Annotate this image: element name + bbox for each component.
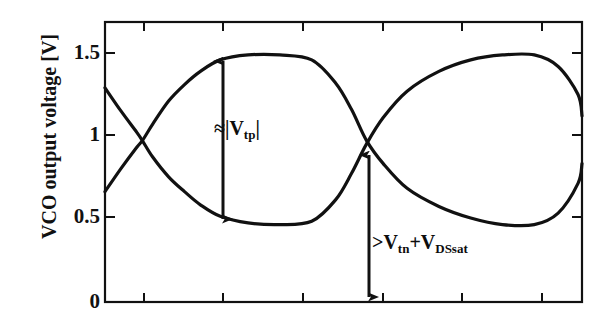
plot-area xyxy=(0,0,599,330)
waveform-curve-0 xyxy=(105,54,582,225)
annotation-vtp-prefix: ≈|V xyxy=(214,117,244,139)
plot-frame xyxy=(105,22,582,302)
x-axis-ticks-top xyxy=(144,22,542,31)
annotation-vtn-mid: +V xyxy=(409,231,435,253)
annotation-vtn-dssat: >Vtn+VDSsat xyxy=(372,232,468,252)
annotation-vtp-suffix: | xyxy=(255,117,259,139)
annotation-vtn-sub2: DSsat xyxy=(435,241,468,256)
vco-output-voltage-figure: VCO output voltage [V] 0 0.5 1 1.5 xyxy=(0,0,599,330)
waveform-curves xyxy=(105,54,582,226)
annotation-vtp: ≈|Vtp| xyxy=(214,118,260,138)
waveform-curve-1 xyxy=(105,54,582,225)
x-axis-ticks-bottom xyxy=(144,293,542,302)
annotation-vtp-sub: tp xyxy=(244,127,256,142)
annotation-vtn-prefix: >V xyxy=(372,231,398,253)
annotation-vtn-sub1: tn xyxy=(398,241,410,256)
